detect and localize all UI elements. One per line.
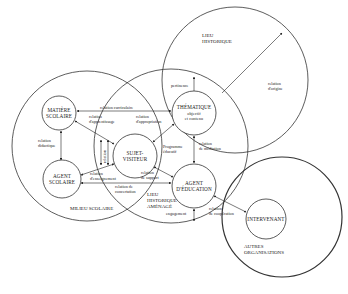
lieu-amenage-label: LIEU [147,192,159,197]
lieu-amenage-label-2: HISTORIQUE [147,198,177,203]
cooperation-label-2: de coopération [209,211,235,216]
mediation-label-2: de médiation [199,146,222,151]
apprentissage-label-2: d'apprentissage [89,119,115,124]
autres-organisations-label: AUTRES [244,244,264,249]
vertical-relation-label: relation [102,149,107,163]
pertinence-label: pertinence [171,83,189,88]
milieu-scolaire-label: MILIEU SCOLAIRE [70,206,113,211]
intervenant-label: INTERVENANT [247,216,285,222]
autres-organisations-label-2: ORGANISATIONS [244,250,284,255]
engagement-label: engagement [166,211,187,216]
programme-label-2: éducatif [163,149,177,154]
pedagogical-relations-diagram: MATIÈRE SCOLAIRE AGENT SCOLAIRE SUJET- V… [0,0,348,294]
appropriation-label-2: d'appropriation [136,119,162,124]
curriculaire-label: relation curriculaire [100,105,133,110]
origine-label-2: d'origine [268,86,283,91]
support-label-2: de support [141,175,159,180]
thematique-label: THÉMATIQUE [177,103,211,110]
matiere-label-2: SCOLAIRE [46,113,72,119]
lieu-historique-label: LIEU [202,33,214,38]
matiere-label: MATIÈRE [47,106,70,113]
agent-education-label-2: D'ÉDUCATION [176,185,212,192]
agent-scolaire-label-2: SCOLAIRE [49,179,75,185]
lieu-historique-label-2: HISTORIQUE [202,39,232,44]
enseignement-label-2: d'enseignement [90,176,117,181]
thematique-sub-2: et contenu [185,116,204,121]
didactique-label-2: didactique [38,143,56,148]
concertation-label-2: concertation [115,189,137,194]
sujet-label-2: VISITEUR [123,156,148,162]
lieu-amenage-label-3: AMÉNAGÉ [147,204,172,209]
